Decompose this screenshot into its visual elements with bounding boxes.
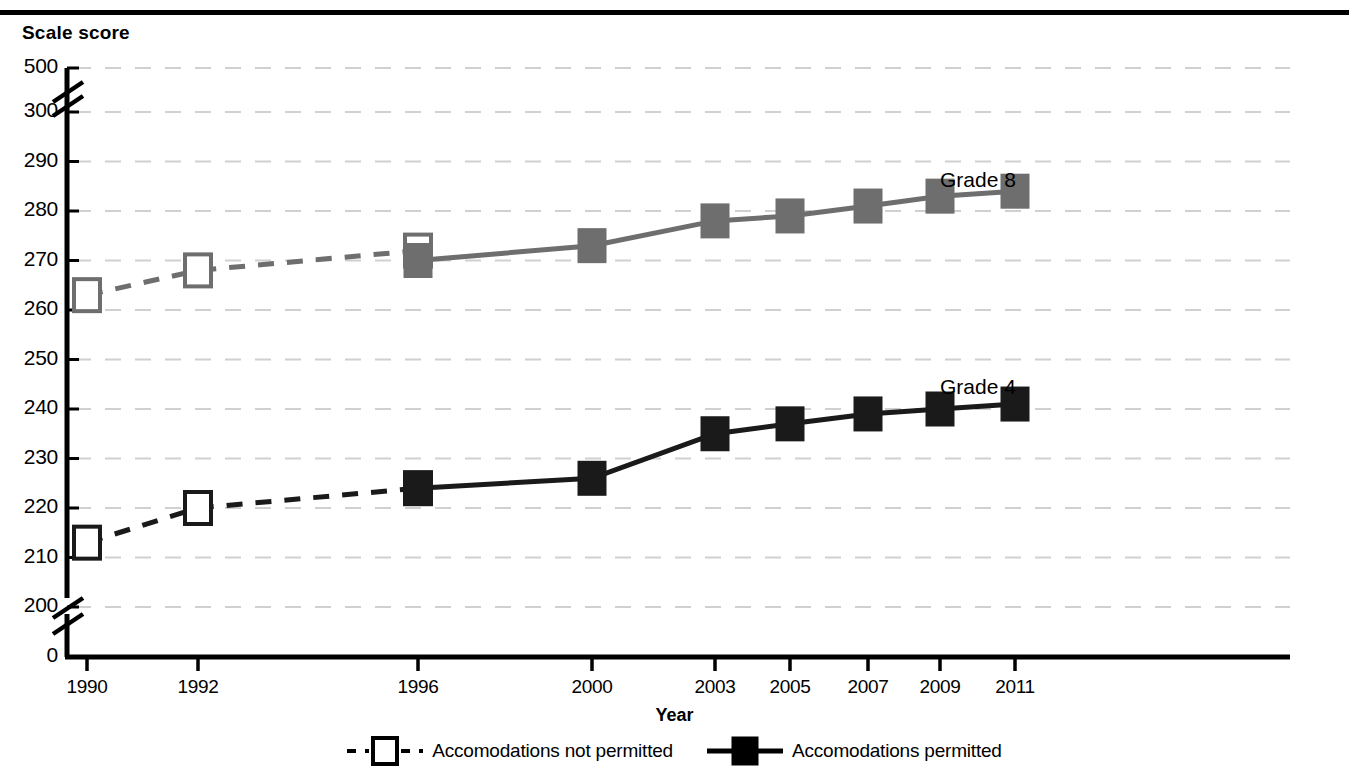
- y-tick-label: 220: [2, 494, 58, 518]
- y-tick-label: 280: [2, 197, 58, 221]
- data-point-marker: [405, 472, 431, 504]
- legend-item: Accomodations permitted: [707, 736, 1002, 766]
- series-label: Grade 4: [940, 375, 1016, 399]
- legend-label: Accomodations not permitted: [432, 740, 673, 762]
- y-tick-label: 290: [2, 148, 58, 172]
- y-tick-label: 270: [2, 247, 58, 271]
- y-tick-label: 200: [2, 593, 58, 617]
- x-tick-label: 1992: [158, 676, 238, 698]
- x-tick-label: 1996: [378, 676, 458, 698]
- y-tick-label: 210: [2, 544, 58, 568]
- y-tick-label: 250: [2, 346, 58, 370]
- x-tick-label: 2003: [675, 676, 755, 698]
- legend-open-square-icon: [347, 736, 423, 766]
- legend-item: Accomodations not permitted: [347, 736, 673, 766]
- x-tick-label: 2011: [975, 676, 1055, 698]
- x-tick-label: 2007: [828, 676, 908, 698]
- data-point-marker: [185, 492, 211, 524]
- y-tick-label: 260: [2, 296, 58, 320]
- y-tick-label: 0: [2, 643, 58, 667]
- x-tick-label: 1990: [47, 676, 127, 698]
- y-tick-label: 230: [2, 445, 58, 469]
- y-tick-label: 240: [2, 395, 58, 419]
- axes: [53, 68, 1290, 671]
- chart-figure: Scale score 5003002902802702602502402302…: [0, 0, 1349, 772]
- y-tick-label: 300: [2, 98, 58, 122]
- series-label: Grade 8: [940, 168, 1016, 192]
- data-point-marker: [579, 230, 605, 262]
- data-point-marker: [405, 245, 431, 277]
- plot-area: [0, 0, 1349, 772]
- series-line: [87, 251, 418, 296]
- data-point-marker: [777, 408, 803, 440]
- x-tick-label: 2009: [900, 676, 980, 698]
- legend-label: Accomodations permitted: [792, 740, 1002, 762]
- data-point-marker: [185, 254, 211, 286]
- data-point-marker: [579, 462, 605, 494]
- chart-legend: Accomodations not permittedAccomodations…: [0, 736, 1349, 766]
- legend-filled-square-icon: [707, 736, 783, 766]
- data-point-marker: [777, 200, 803, 232]
- data-series: [74, 175, 1028, 558]
- x-axis-title: Year: [0, 705, 1349, 726]
- x-tick-label: 2000: [552, 676, 632, 698]
- gridlines: [75, 68, 1290, 607]
- data-point-marker: [74, 279, 100, 311]
- data-point-marker: [702, 418, 728, 450]
- data-point-marker: [855, 398, 881, 430]
- data-point-marker: [74, 527, 100, 559]
- data-point-marker: [855, 190, 881, 222]
- x-tick-label: 2005: [750, 676, 830, 698]
- series-line: [87, 488, 418, 542]
- data-point-marker: [702, 205, 728, 237]
- y-tick-label: 500: [2, 54, 58, 78]
